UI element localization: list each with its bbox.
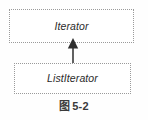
- figure-caption: 图5-2: [0, 98, 148, 115]
- figure-caption-glyph: 图: [59, 100, 70, 113]
- uml-class-box-iterator: Iterator: [9, 9, 134, 43]
- figure-caption-number: 5-2: [72, 100, 89, 112]
- uml-class-box-listiterator: ListIterator: [14, 63, 131, 94]
- uml-class-label-listiterator: ListIterator: [47, 73, 98, 84]
- uml-class-label-iterator: Iterator: [54, 21, 88, 32]
- figure-container: Iterator ListIterator 图5-2: [0, 0, 148, 120]
